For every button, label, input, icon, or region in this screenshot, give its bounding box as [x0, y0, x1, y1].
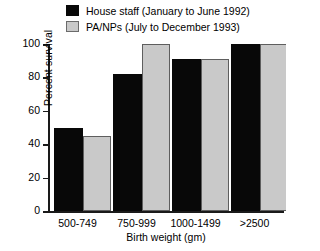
- x-axis-title: Birth weight (gm): [48, 231, 284, 243]
- legend-item-house-staff: House staff (January to June 1992): [66, 3, 284, 18]
- y-tick-label-80: 80: [28, 70, 40, 83]
- bar-1000-1499-black: [172, 59, 201, 211]
- legend-label-pa-nps: PA/NPs (July to December 1993): [86, 21, 240, 33]
- legend-swatch-house-staff: [66, 5, 79, 16]
- bar-500-749-gray: [83, 136, 112, 211]
- plot-area: 020406080100 Percent survival 500-749750…: [48, 44, 284, 211]
- legend-item-pa-nps: PA/NPs (July to December 1993): [66, 19, 284, 34]
- legend-label-house-staff: House staff (January to June 1992): [86, 5, 250, 17]
- bar-750-999-black: [113, 74, 142, 211]
- y-tick-label-100: 100: [22, 37, 40, 50]
- bar->2500-gray: [260, 44, 287, 211]
- x-tick-label->2500: >2500: [225, 217, 284, 230]
- bar->2500-black: [231, 44, 260, 211]
- legend-swatch-pa-nps: [66, 21, 79, 32]
- x-tick-label-750-999: 750-999: [107, 217, 166, 230]
- y-tick-0: 0: [43, 211, 48, 213]
- x-tick-label-1000-1499: 1000-1499: [166, 217, 225, 230]
- y-tick-label-40: 40: [28, 137, 40, 150]
- bar-750-999-gray: [142, 44, 171, 211]
- bar-group-container: [48, 44, 284, 211]
- bar-500-749-black: [54, 128, 83, 212]
- y-tick-label-60: 60: [28, 104, 40, 117]
- x-tick-label-500-749: 500-749: [48, 217, 107, 230]
- chart-legend: House staff (January to June 1992) PA/NP…: [66, 3, 284, 35]
- y-tick-label-20: 20: [28, 171, 40, 184]
- x-axis-line: [48, 211, 284, 213]
- y-tick-label-0: 0: [34, 204, 40, 217]
- bar-1000-1499-gray: [201, 59, 230, 211]
